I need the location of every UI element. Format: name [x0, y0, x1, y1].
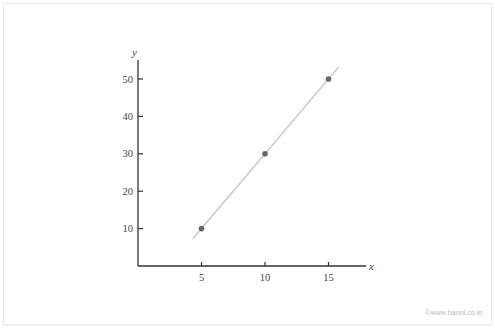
scatter-chart: 510151020304050 x y — [0, 0, 495, 328]
x-tick-label: 15 — [323, 272, 334, 283]
data-point — [262, 151, 268, 157]
y-axis-label: y — [131, 46, 137, 58]
y-tick-label: 10 — [123, 223, 134, 234]
y-tick-label: 40 — [123, 111, 134, 122]
y-tick-label: 20 — [123, 186, 134, 197]
data-point — [326, 76, 332, 82]
y-tick-label: 30 — [123, 148, 134, 159]
watermark: ©www.hanol.co.kr — [425, 309, 483, 316]
y-tick-label: 50 — [123, 74, 134, 85]
x-tick-label: 5 — [199, 272, 204, 283]
data-point — [199, 226, 205, 232]
x-axis-label: x — [368, 260, 374, 272]
axes — [138, 60, 366, 266]
axis-ticks: 510151020304050 — [123, 74, 334, 284]
x-tick-label: 10 — [260, 272, 271, 283]
